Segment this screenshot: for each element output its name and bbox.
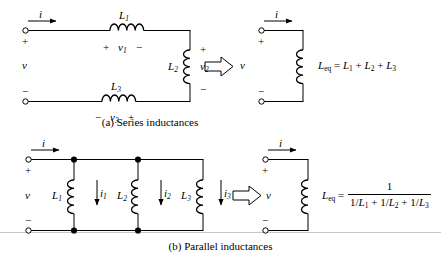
v1-plus-sign: + bbox=[103, 42, 109, 53]
parallel-eq-bottom-terminal bbox=[263, 228, 268, 233]
parallel-source-current-label: i bbox=[42, 138, 45, 149]
series-equivalent-circuit bbox=[259, 21, 304, 104]
v2-plus-sign: + bbox=[200, 44, 206, 55]
caption-series: (a) Series inductances bbox=[0, 117, 300, 128]
series-eq-equals: = bbox=[334, 59, 340, 71]
parallel-inductor-L3-label: L3 bbox=[181, 190, 191, 201]
parallel-i1-subscript: 1 bbox=[103, 192, 107, 201]
circuit-drawing bbox=[0, 0, 441, 258]
inductor-Leq-parallel-coil bbox=[302, 180, 309, 214]
den-term2-prefix: 1/ bbox=[380, 196, 389, 208]
inductor-L3-subscript: 3 bbox=[117, 85, 121, 94]
parallel-bottom-terminal bbox=[26, 228, 31, 233]
parallel-inductor-L1-label: L1 bbox=[52, 190, 62, 201]
series-eq-operator-2: + bbox=[377, 59, 383, 71]
series-top-terminal bbox=[23, 28, 28, 33]
series-source-voltage-label: v bbox=[22, 60, 27, 71]
parallel-eq-current-label: i bbox=[279, 138, 282, 149]
inductor-L3-label: L3 bbox=[111, 81, 121, 92]
inductor-L2-parallel-coil bbox=[132, 180, 139, 214]
parallel-equivalent-lhs: Leq = bbox=[322, 190, 344, 201]
parallel-L3-subscript: 3 bbox=[187, 194, 191, 203]
parallel-i3-subscript: 3 bbox=[227, 192, 231, 201]
parallel-equivalent-fraction: 1 1/L1 + 1/L2 + 1/L3 bbox=[348, 180, 431, 208]
parallel-source-minus-sign: − bbox=[25, 215, 31, 226]
v1-voltage-label: v1 bbox=[118, 42, 127, 53]
series-implies-arrow bbox=[205, 57, 233, 76]
parallel-top-terminal bbox=[26, 157, 31, 162]
inductor-L2-label: L2 bbox=[168, 61, 178, 72]
inductor-L1-parallel-coil bbox=[68, 180, 75, 214]
series-eq-voltage-label: v bbox=[240, 60, 245, 71]
parallel-eq-lhs-subscript: eq bbox=[328, 194, 335, 203]
inductor-L2-subscript: 2 bbox=[174, 65, 178, 74]
den-term1-subscript: 1 bbox=[365, 201, 369, 210]
parallel-implies-arrow bbox=[233, 186, 261, 205]
series-left-circuit bbox=[23, 21, 191, 104]
series-eq-bottom-terminal bbox=[259, 99, 264, 104]
inductor-Leq-series-coil bbox=[296, 50, 303, 84]
caption-parallel: (b) Parallel inductances bbox=[0, 241, 441, 252]
parallel-branch3-current-label: i3 bbox=[224, 188, 231, 199]
den-operator-1: + bbox=[371, 196, 377, 208]
v1-minus-sign: − bbox=[136, 42, 142, 53]
parallel-eq-top-terminal bbox=[263, 157, 268, 162]
den-term3-subscript: 3 bbox=[425, 201, 429, 210]
den-term2-subscript: 2 bbox=[395, 201, 399, 210]
den-term3-prefix: 1/ bbox=[410, 196, 419, 208]
inductor-L3-parallel-coil bbox=[197, 180, 204, 214]
series-eq-current-label: i bbox=[275, 9, 278, 20]
parallel-L1-subscript: 1 bbox=[58, 194, 62, 203]
series-source-current-label: i bbox=[39, 9, 42, 20]
parallel-eq-voltage-label: v bbox=[266, 190, 271, 201]
parallel-eq-minus-sign: − bbox=[262, 215, 268, 226]
series-eq-plus-sign: + bbox=[258, 36, 264, 47]
den-term1-letter: L bbox=[359, 196, 365, 208]
series-source-minus-sign: − bbox=[22, 86, 28, 97]
series-eq-top-terminal bbox=[259, 28, 264, 33]
v2-subscript: 2 bbox=[205, 65, 209, 74]
den-operator-2: + bbox=[401, 196, 407, 208]
v1-subscript: 1 bbox=[123, 46, 127, 55]
parallel-eq-numerator: 1 bbox=[348, 180, 431, 194]
inductor-L1-label: L1 bbox=[119, 10, 129, 21]
inductor-L2-coil bbox=[184, 50, 191, 84]
series-eq-minus-sign: − bbox=[258, 86, 264, 97]
parallel-L2-subscript: 2 bbox=[123, 194, 127, 203]
v2-voltage-label: v2 bbox=[200, 61, 209, 72]
series-source-plus-sign: + bbox=[22, 36, 28, 47]
inductor-L3-coil bbox=[102, 95, 136, 102]
parallel-branch1-current-label: i1 bbox=[100, 188, 107, 199]
parallel-eq-equals: = bbox=[338, 189, 344, 201]
inductor-L1-coil bbox=[110, 24, 144, 31]
series-eq-term2-letter: L bbox=[365, 59, 371, 71]
series-eq-term2-subscript: 2 bbox=[371, 64, 375, 73]
parallel-source-plus-sign: + bbox=[25, 165, 31, 176]
parallel-i2-subscript: 2 bbox=[167, 192, 171, 201]
inductor-L1-subscript: 1 bbox=[125, 14, 129, 23]
series-bottom-terminal bbox=[23, 99, 28, 104]
series-eq-lhs-subscript: eq bbox=[324, 64, 331, 73]
series-equivalent-equation: Leq = L1 + L2 + L3 bbox=[318, 60, 396, 71]
parallel-eq-denominator: 1/L1 + 1/L2 + 1/L3 bbox=[348, 195, 431, 209]
parallel-inductor-L2-label: L2 bbox=[117, 190, 127, 201]
parallel-eq-plus-sign: + bbox=[262, 165, 268, 176]
series-eq-term1-subscript: 1 bbox=[349, 64, 353, 73]
series-eq-term3-subscript: 3 bbox=[392, 64, 396, 73]
parallel-source-voltage-label: v bbox=[25, 190, 30, 201]
parallel-branch2-current-label: i2 bbox=[164, 188, 171, 199]
series-eq-operator-1: + bbox=[356, 59, 362, 71]
inductance-figure: i + v − L1 + v1 − L2 + v2 − L3 − v3 + i … bbox=[0, 0, 441, 258]
v2-minus-sign: − bbox=[200, 84, 206, 95]
den-term1-prefix: 1/ bbox=[350, 196, 359, 208]
den-term2-letter: L bbox=[389, 196, 395, 208]
